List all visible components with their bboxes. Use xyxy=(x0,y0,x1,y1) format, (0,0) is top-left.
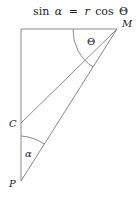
label-P: P xyxy=(8,178,16,189)
line-PM xyxy=(21,29,117,181)
formula: sin α = r cos Θ xyxy=(33,5,128,18)
alpha-arc xyxy=(21,136,44,144)
formula-equals: = xyxy=(69,5,78,18)
label-M: M xyxy=(121,18,133,29)
formula-sin: sin xyxy=(33,5,49,18)
formula-theta: Θ xyxy=(119,5,128,18)
label-C: C xyxy=(9,118,17,129)
geometry-diagram: sin α = r cos Θ M C P Θ α xyxy=(0,0,139,197)
theta-arc xyxy=(73,29,93,67)
label-theta: Θ xyxy=(87,36,95,47)
label-alpha: α xyxy=(25,148,32,159)
formula-alpha: α xyxy=(55,5,63,18)
line-CM xyxy=(21,29,117,123)
formula-cos: cos xyxy=(95,5,114,18)
formula-r: r xyxy=(84,5,90,18)
